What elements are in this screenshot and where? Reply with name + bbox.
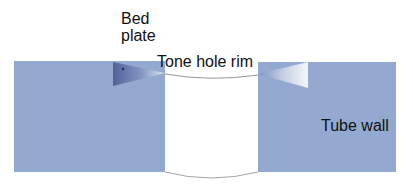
bed-plate-label-line2: plate	[121, 28, 156, 45]
tone-hole-top-rim-arc	[165, 74, 258, 78]
bed-plate-marker-dot	[122, 68, 124, 70]
tone-hole-rim-label: Tone hole rim	[157, 54, 253, 71]
tone-hole-bottom-arc	[165, 172, 258, 178]
bed-plate-label-line1: Bed	[121, 11, 156, 28]
bed-plate-label: Bed plate	[121, 11, 156, 45]
tube-wall-label: Tube wall	[321, 118, 389, 135]
tone-hole-diagram	[0, 0, 413, 185]
